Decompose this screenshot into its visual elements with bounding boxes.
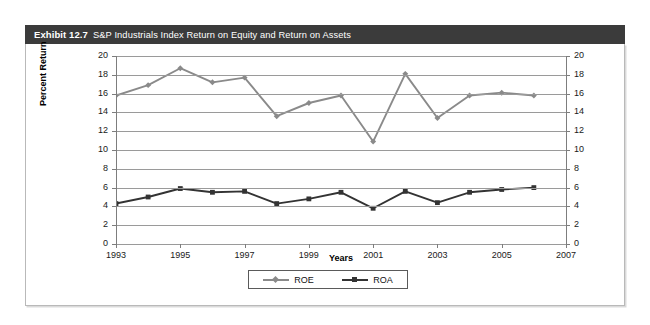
x-axis-label: 2003 [417, 251, 457, 260]
x-tick [309, 244, 310, 248]
y-axis-left-label: 2 [78, 220, 108, 229]
y-axis-left-label: 10 [78, 145, 108, 154]
y-tick-right [566, 225, 570, 226]
y-tick-left [112, 131, 116, 132]
y-axis-right-label: 8 [574, 164, 604, 173]
y-axis-left-label: 4 [78, 201, 108, 210]
y-axis-right-label: 2 [574, 220, 604, 229]
x-axis-label: 1999 [289, 251, 329, 260]
y-tick-left [112, 150, 116, 151]
exhibit-container: Exhibit 12.7 S&P Industrials Index Retur… [25, 25, 625, 306]
x-tick [566, 244, 567, 248]
y-tick-left [112, 112, 116, 113]
legend-label: ROA [373, 275, 393, 285]
y-axis-left-label: 18 [78, 70, 108, 79]
y-tick-right [566, 131, 570, 132]
data-point-roe [209, 79, 215, 85]
chart-legend: ROEROA [248, 270, 408, 289]
y-axis-left-label: 16 [78, 89, 108, 98]
x-axis-label: 2007 [546, 251, 586, 260]
gridline [116, 150, 566, 151]
data-point-roa [210, 190, 215, 195]
plot-area: 02468101214161820 02468101214161820 1993… [116, 56, 566, 244]
legend-swatch-square-icon [342, 275, 368, 284]
y-axis-right-label: 6 [574, 183, 604, 192]
line-chart: Percent Return Years 02468101214161820 0… [26, 44, 624, 304]
y-axis-right-label: 14 [574, 107, 604, 116]
y-tick-right [566, 206, 570, 207]
gridline [116, 244, 566, 245]
y-axis-title: Percent Return [38, 41, 48, 106]
x-tick [502, 244, 503, 248]
x-tick [373, 244, 374, 248]
x-tick [116, 244, 117, 248]
y-tick-right [566, 75, 570, 76]
y-tick-right [566, 150, 570, 151]
legend-label: ROE [294, 275, 314, 285]
gridline [116, 112, 566, 113]
data-point-roa [435, 200, 440, 205]
data-point-roa [242, 189, 247, 194]
y-tick-right [566, 112, 570, 113]
gridline [116, 94, 566, 95]
gridline [116, 225, 566, 226]
gridline [116, 56, 566, 57]
gridline [116, 188, 566, 189]
gridline [116, 206, 566, 207]
legend-entry-roe[interactable]: ROE [263, 275, 314, 285]
data-point-roa [339, 190, 344, 195]
y-tick-left [112, 188, 116, 189]
exhibit-caption: S&P Industrials Index Return on Equity a… [93, 30, 351, 40]
y-axis-right-label: 20 [574, 51, 604, 60]
exhibit-body: Percent Return Years 02468101214161820 0… [25, 44, 625, 306]
x-axis-label: 1993 [96, 251, 136, 260]
y-tick-left [112, 56, 116, 57]
y-tick-left [112, 94, 116, 95]
x-axis-label: 2005 [482, 251, 522, 260]
y-tick-left [112, 75, 116, 76]
x-tick [245, 244, 246, 248]
x-axis-label: 1997 [225, 251, 265, 260]
data-point-roe [306, 100, 312, 106]
y-axis-left-label: 6 [78, 183, 108, 192]
data-point-roa [306, 196, 311, 201]
exhibit-header-bar: Exhibit 12.7 S&P Industrials Index Retur… [25, 25, 625, 44]
legend-swatch-diamond-icon [263, 275, 289, 284]
y-axis-right-label: 4 [574, 201, 604, 210]
y-tick-right [566, 56, 570, 57]
data-point-roa [274, 201, 279, 206]
exhibit-number: Exhibit 12.7 [34, 29, 88, 40]
gridline [116, 131, 566, 132]
y-axis-left-label: 14 [78, 107, 108, 116]
y-axis-right-label: 10 [574, 145, 604, 154]
x-axis-label: 2001 [353, 251, 393, 260]
y-tick-left [112, 206, 116, 207]
y-axis-left-label: 12 [78, 126, 108, 135]
y-axis-right-label: 16 [574, 89, 604, 98]
x-tick [180, 244, 181, 248]
y-tick-left [112, 169, 116, 170]
y-tick-right [566, 94, 570, 95]
y-axis-left-label: 20 [78, 51, 108, 60]
data-point-roa [146, 195, 151, 200]
x-axis-label: 1995 [160, 251, 200, 260]
gridline [116, 75, 566, 76]
y-tick-right [566, 169, 570, 170]
legend-entry-roa[interactable]: ROA [342, 275, 393, 285]
data-point-roa [403, 189, 408, 194]
data-point-roa [467, 190, 472, 195]
y-tick-left [112, 225, 116, 226]
y-axis-right-label: 12 [574, 126, 604, 135]
y-axis-right-label: 18 [574, 70, 604, 79]
y-axis-left-label: 8 [78, 164, 108, 173]
y-axis-left-line [116, 56, 117, 244]
x-tick [437, 244, 438, 248]
y-tick-right [566, 188, 570, 189]
y-axis-left-label: 0 [78, 239, 108, 248]
gridline [116, 169, 566, 170]
y-axis-right-label: 0 [574, 239, 604, 248]
